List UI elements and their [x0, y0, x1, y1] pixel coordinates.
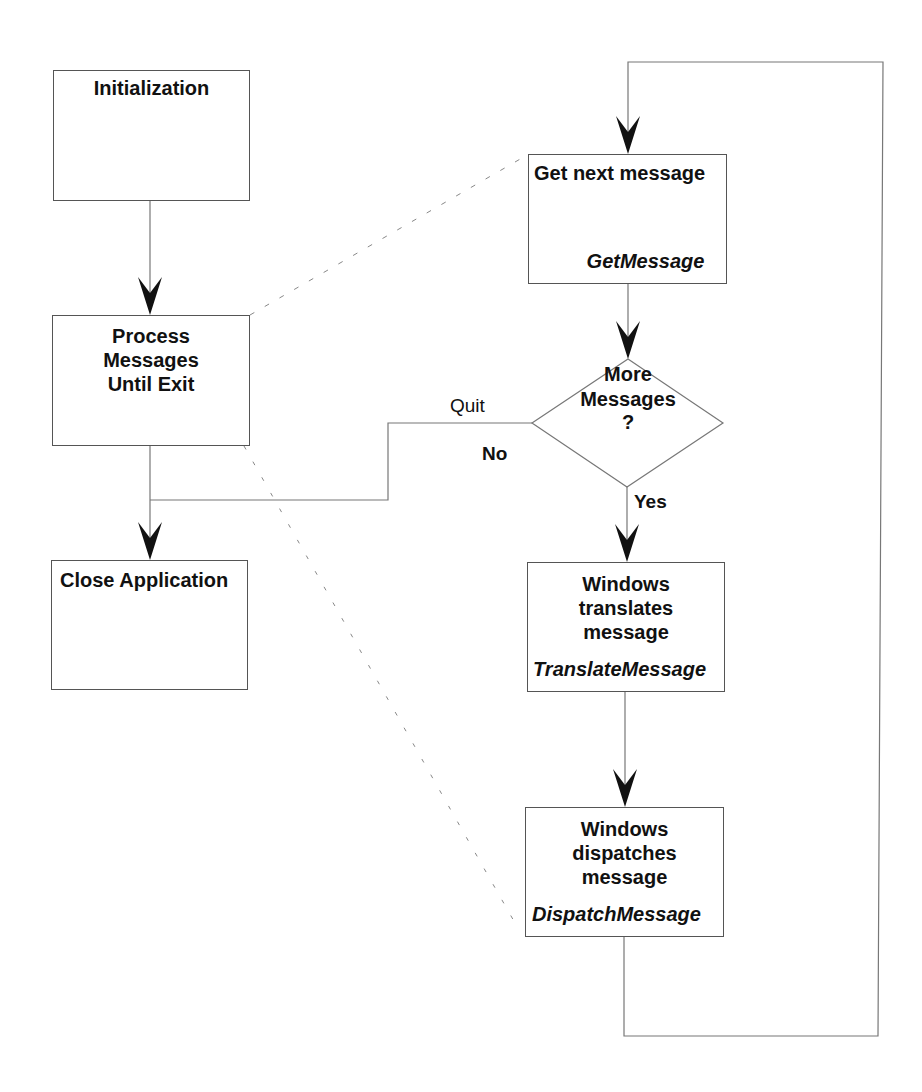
decision-label-line-3: ? — [568, 411, 688, 433]
node-initialization: Initialization — [53, 70, 250, 201]
decision-label-line-2: Messages — [568, 388, 688, 410]
edge-label-yes: Yes — [634, 492, 667, 512]
node-label-line-3: message — [526, 866, 723, 888]
node-dispatch-message: Windows dispatches message DispatchMessa… — [525, 807, 724, 937]
node-label-line-2: Messages — [53, 349, 249, 371]
node-label-line-2: translates — [528, 597, 724, 619]
node-translate-message: Windows translates message TranslateMess… — [527, 562, 725, 692]
node-function-name: GetMessage — [565, 250, 726, 272]
node-label-line-2: dispatches — [526, 842, 723, 864]
node-get-next-message: Get next message GetMessage — [528, 154, 727, 284]
decision-label-line-1: More — [568, 363, 688, 385]
node-label: Initialization — [54, 77, 249, 99]
node-process-messages: Process Messages Until Exit — [52, 315, 250, 446]
node-function-name: DispatchMessage — [532, 903, 723, 925]
dashed-expansion-top — [250, 158, 522, 315]
edge-label-no: No — [482, 444, 507, 464]
node-label-line-1: Windows — [526, 818, 723, 840]
node-label-line-3: Until Exit — [53, 373, 249, 395]
dashed-expansion-bottom — [244, 446, 519, 930]
node-label: Close Application — [60, 569, 247, 591]
node-function-name: TranslateMessage — [533, 658, 724, 680]
node-label-line-1: Process — [53, 325, 249, 347]
node-label: Get next message — [534, 162, 726, 184]
node-label-line-3: message — [528, 621, 724, 643]
node-close-application: Close Application — [51, 560, 248, 690]
node-label-line-1: Windows — [528, 573, 724, 595]
edge-label-quit: Quit — [450, 396, 485, 416]
